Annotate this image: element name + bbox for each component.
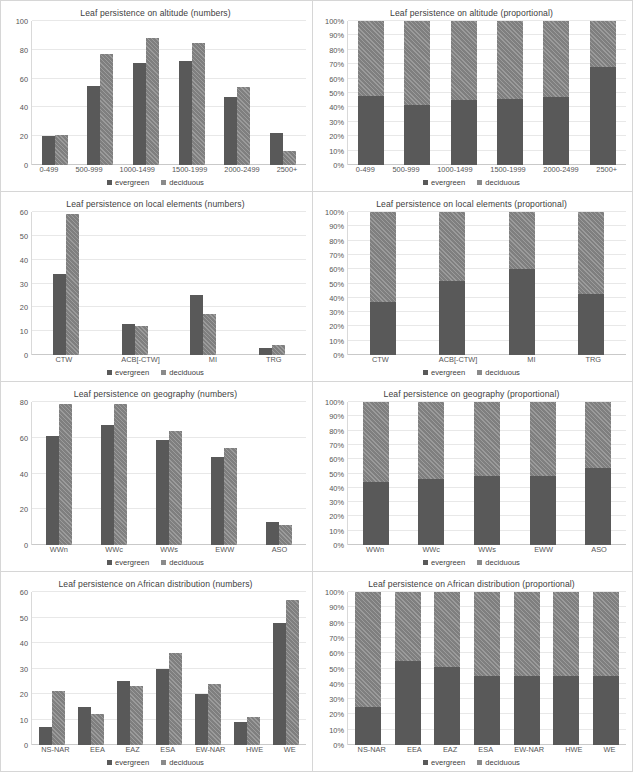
y-tick-label: 60% <box>329 265 344 274</box>
y-tick-label: 10 <box>20 327 28 336</box>
y-tick-label: 40% <box>329 483 344 492</box>
x-axis: WWnWWcWWsEWWASO <box>5 545 306 554</box>
y-tick-label: 0% <box>333 541 344 550</box>
x-tick-label: 2000-2499 <box>543 165 578 174</box>
bar-deciduous <box>55 135 68 165</box>
y-axis: 0%10%20%30%40%50%60%70%80%90%100% <box>317 21 347 165</box>
y-tick-label: 0% <box>333 741 344 750</box>
y-tick-label: 60 <box>20 433 28 442</box>
bar-segment-evergreen <box>358 96 384 165</box>
y-tick-label: 20% <box>329 710 344 719</box>
bar-deciduous <box>130 686 143 745</box>
y-tick-label: 0 <box>24 541 28 550</box>
x-tick-label: NS-NAR <box>358 745 386 754</box>
bar-deciduous <box>146 38 159 165</box>
bar-segment-deciduous <box>530 402 556 476</box>
y-tick-label: 30% <box>329 117 344 126</box>
x-tick-label: CTW <box>372 355 389 364</box>
legend-swatch-deciduous <box>161 370 166 375</box>
legend-item-evergreen: evergreen <box>423 178 465 187</box>
x-tick-label: EWW <box>534 545 553 554</box>
bar-segment-evergreen <box>590 67 616 165</box>
y-tick-label: 50 <box>20 613 28 622</box>
chart-african-distribution-proportional: Leaf persistence on African distribution… <box>313 572 632 771</box>
chart-altitude-numbers: Leaf persistence on altitude (numbers)02… <box>1 1 312 191</box>
chart-legend: evergreendeciduous <box>317 558 626 567</box>
x-axis: 0-499500-9991000-14991500-19992000-24992… <box>5 165 306 174</box>
x-tick-label: TRG <box>585 355 601 364</box>
plot-canvas <box>347 212 626 355</box>
bar-evergreen <box>46 436 59 545</box>
stacked-bar <box>474 402 500 545</box>
bar-evergreen <box>211 457 224 545</box>
bar-segment-evergreen <box>497 99 523 165</box>
legend-item-evergreen: evergreen <box>423 758 465 767</box>
y-tick-label: 90% <box>329 603 344 612</box>
x-tick-label: HWE <box>246 745 263 754</box>
chart-title: Leaf persistence on local elements (numb… <box>5 199 306 210</box>
x-tick-label: ACB[-CTW] <box>439 355 478 364</box>
bar-segment-deciduous <box>590 21 616 67</box>
bar-group <box>78 592 104 745</box>
bar-evergreen <box>266 522 279 545</box>
plot-canvas <box>31 592 306 745</box>
bar-segment-evergreen <box>355 707 381 745</box>
y-tick-label: 80% <box>329 45 344 54</box>
legend-item-deciduous: deciduous <box>477 758 520 767</box>
bar-deciduous <box>237 87 250 165</box>
plot-canvas <box>31 21 306 165</box>
legend-label-evergreen: evergreen <box>115 368 149 377</box>
x-axis: WWnWWcWWsEWWASO <box>317 545 626 554</box>
bar-evergreen <box>259 348 272 355</box>
bar-evergreen <box>195 694 208 745</box>
bar-deciduous <box>169 431 182 545</box>
y-tick-label: 30 <box>20 279 28 288</box>
bar-segment-deciduous <box>451 21 477 100</box>
stacked-bar <box>474 592 500 745</box>
legend-item-evergreen: evergreen <box>107 758 149 767</box>
y-tick-label: 30 <box>20 664 28 673</box>
x-tick-label: WWs <box>478 545 496 554</box>
bar-segment-evergreen <box>474 676 500 745</box>
x-tick-label: NS-NAR <box>41 745 69 754</box>
bar-evergreen <box>156 669 169 746</box>
y-axis: 020406080100 <box>5 21 31 165</box>
bar-segment-deciduous <box>593 592 619 676</box>
bar-evergreen <box>273 623 286 745</box>
y-axis: 0%10%20%30%40%50%60%70%80%90%100% <box>317 592 347 745</box>
stacked-bar <box>363 402 389 545</box>
x-tick-label: MI <box>209 355 217 364</box>
x-tick-label: EAZ <box>443 745 457 754</box>
legend-label-evergreen: evergreen <box>115 758 149 767</box>
y-tick-label: 70% <box>329 440 344 449</box>
x-axis-labels: CTWACB[-CTW]MITRG <box>31 355 306 364</box>
bar-evergreen <box>117 681 130 745</box>
y-tick-label: 60 <box>20 74 28 83</box>
x-tick-label: HWE <box>565 745 582 754</box>
y-tick-label: 10% <box>329 526 344 535</box>
bar-segment-evergreen <box>434 667 460 745</box>
y-tick-label: 80% <box>329 426 344 435</box>
bar-deciduous <box>59 404 72 545</box>
legend-swatch-evergreen <box>423 560 428 565</box>
legend-item-deciduous: deciduous <box>161 178 204 187</box>
y-tick-label: 40% <box>329 103 344 112</box>
bar-deciduous <box>247 717 260 745</box>
bar-group <box>259 212 285 355</box>
bar-evergreen <box>179 61 192 165</box>
y-tick-label: 50% <box>329 89 344 98</box>
legend-item-deciduous: deciduous <box>477 368 520 377</box>
chart-legend: evergreendeciduous <box>317 758 626 767</box>
bar-segment-evergreen <box>514 676 540 745</box>
bar-segment-deciduous <box>578 212 604 294</box>
bar-segment-evergreen <box>509 269 535 355</box>
chart-local-elements-numbers: Leaf persistence on local elements (numb… <box>1 192 312 381</box>
legend-swatch-deciduous <box>161 560 166 565</box>
legend-label-evergreen: evergreen <box>431 558 465 567</box>
y-tick-label: 60 <box>20 208 28 217</box>
y-tick-label: 60% <box>329 455 344 464</box>
legend-label-evergreen: evergreen <box>115 558 149 567</box>
bar-deciduous <box>114 404 127 545</box>
x-tick-label: 500-999 <box>392 165 419 174</box>
x-tick-label: EW-NAR <box>514 745 544 754</box>
